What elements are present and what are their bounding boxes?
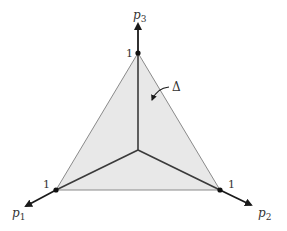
axis-p1 <box>26 190 56 206</box>
tick-label-p2: 1 <box>228 178 235 191</box>
simplex-diagram: 1 1 1 p3 p1 p2 Δ <box>0 0 287 231</box>
axis-p2 <box>220 190 251 205</box>
vertex-p3 <box>135 50 140 55</box>
vertex-p1 <box>53 187 58 192</box>
axis-label-p3: p3 <box>133 8 147 24</box>
axis-label-p1: p1 <box>12 206 25 222</box>
axis-label-p2: p2 <box>258 206 271 222</box>
tick-label-p3: 1 <box>126 47 133 60</box>
vertex-p2 <box>217 187 222 192</box>
simplex-label: Δ <box>172 80 181 94</box>
tick-label-p1: 1 <box>43 178 50 191</box>
